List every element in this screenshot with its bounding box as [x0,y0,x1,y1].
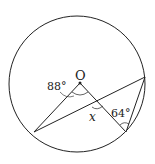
angle-arc-88 [72,92,88,95]
label-center-o: O [75,68,86,83]
circle [9,16,145,152]
label-angle-64: 64° [111,107,131,120]
angle-arc-64 [120,123,129,125]
label-angle-x: x [89,110,96,124]
label-angle-88: 88° [47,80,67,93]
circle-geometry-diagram: O 88° x 64° [0,0,155,164]
